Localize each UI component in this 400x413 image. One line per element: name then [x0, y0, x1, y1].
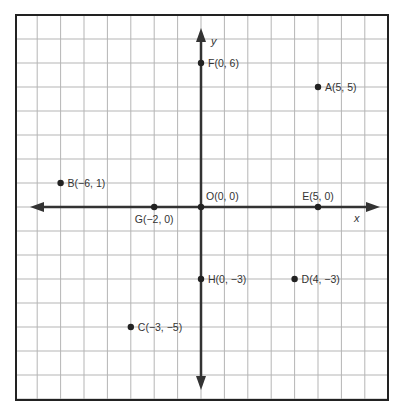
point-marker-icon — [198, 60, 204, 66]
x-axis-right-arrow-icon — [366, 202, 380, 212]
point-marker-icon — [315, 84, 321, 90]
coordinate-plane: A(5, 5)B(−6, 1)C(−3, −5)D(4, −3)E(5, 0)F… — [0, 0, 400, 413]
point-f: F(0, 6) — [198, 57, 239, 69]
data-points: A(5, 5)B(−6, 1)C(−3, −5)D(4, −3)E(5, 0)F… — [57, 57, 356, 333]
point-label: H(0, −3) — [208, 273, 246, 285]
point-marker-icon — [151, 204, 157, 210]
point-a: A(5, 5) — [315, 81, 357, 93]
point-label: D(4, −3) — [302, 273, 340, 285]
point-marker-icon — [315, 204, 321, 210]
y-axis-down-arrow-icon — [196, 376, 206, 390]
point-label: A(5, 5) — [325, 81, 357, 93]
y-axis-label: y — [210, 35, 218, 47]
point-marker-icon — [57, 180, 63, 186]
x-axis-label: x — [353, 212, 360, 224]
point-label: F(0, 6) — [208, 57, 239, 69]
point-marker-icon — [291, 276, 297, 282]
point-label: E(5, 0) — [302, 190, 334, 202]
point-label: C(−3, −5) — [138, 321, 182, 333]
point-label: O(0, 0) — [206, 190, 239, 202]
point-marker-icon — [128, 324, 134, 330]
point-marker-icon — [198, 204, 204, 210]
point-label: B(−6, 1) — [68, 177, 106, 189]
point-marker-icon — [198, 276, 204, 282]
plot-svg: A(5, 5)B(−6, 1)C(−3, −5)D(4, −3)E(5, 0)F… — [0, 0, 400, 413]
y-axis-up-arrow-icon — [196, 28, 206, 42]
point-label: G(−2, 0) — [135, 213, 174, 225]
